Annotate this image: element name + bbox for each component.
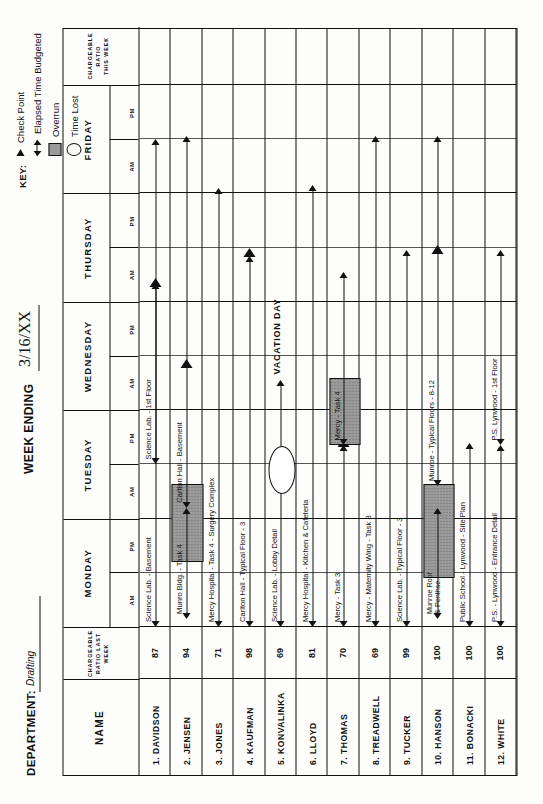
task-label: Munroe Roof& Penthse. [425,572,442,614]
double-arrow-icon [32,140,41,156]
key-title: KEY: [16,165,27,188]
elapsed-time-bar [218,193,219,622]
employee-name: 4. KAUFMAN [244,707,254,765]
check-point-triangle-icon [243,248,255,257]
chargeable-ratio-last-week: 87 [149,627,159,679]
column-header-thursday: THURSDAY AM PM [63,193,139,301]
bar-end-arrow-icon [308,185,316,191]
key-item-overrun: Overrun [48,103,61,156]
key-label: Check Point [14,92,25,143]
bar-end-arrow-icon [371,137,379,143]
column-header-ratio-last-week: CHARGEABLE RATIO LAST WEEK [63,627,139,679]
bar-end-arrow-icon [433,508,441,514]
check-point-triangle-icon [16,149,24,156]
column-header-tuesday: TUESDAY AM PM [63,410,139,518]
employee-name: 10. HANSON [432,708,442,765]
task-label: P.S. Lynwood - 1st Floor [489,359,498,441]
bar-end-arrow-icon [402,250,410,256]
task-label: Mercy - Task 3 [332,573,341,622]
elapsed-time-bar [343,277,344,440]
department-label: DEPARTMENT: [24,690,36,776]
elapsed-time-bar [500,450,501,622]
bar-end-arrow-icon [496,250,504,256]
chargeable-ratio-last-week: 69 [274,627,284,679]
employee-name: 7. THOMAS [338,714,348,765]
department-rule [39,596,40,692]
week-ending-label: WEEK ENDING [21,384,35,474]
employee-name: 2. JENSEN [181,717,191,765]
ratio-this-line3: THIS WEEK [101,27,109,85]
elapsed-time-bar [186,513,187,614]
chargeable-ratio-last-week: 100 [463,627,473,679]
bar-end-arrow-icon [182,508,190,514]
elapsed-time-bar [343,450,344,622]
week-ending-value: 3/16/XX [15,311,33,367]
check-point-triangle-icon [431,245,443,254]
bar-end-arrow-icon [433,137,441,143]
bar-end-arrow-icon [496,445,504,451]
elapsed-time-bar [469,448,470,622]
task-label: Munro Bldg. - Task 4 [174,544,183,614]
ratio-this-line1: CHARGEABLE [85,27,93,85]
column-header-ratio-this-week: CHARGEABLE RATIO THIS WEEK [63,27,139,85]
elapsed-time-bar [406,255,407,622]
task-label: Science Lab. - Lobby Detail [269,529,278,622]
key-label: Elapsed Time Budgeted [31,33,42,134]
vacation-label: VACATION DAY [271,298,281,374]
column-header-name: NAME [63,679,139,775]
task-label: Carlton Hall - Typical Floor - 3 [237,522,246,622]
task-label: Science Lab. - Typical Floor - 3 [394,517,403,622]
employee-name: 9. TUCKER [401,715,411,765]
employee-name: 8. TREADWELL [370,696,380,766]
bar-end-arrow-icon [339,272,347,278]
task-label: Mercy - Task 4 [332,391,341,440]
bar-end-arrow-icon [276,380,284,386]
chargeable-ratio-last-week: 99 [400,627,410,679]
employee-name: 5. KONVALINKA [275,692,285,765]
schedule-sheet: DEPARTMENT: Drafting WEEK ENDING 3/16/XX… [0,0,543,804]
task-label: Science Lab. - 1st Floor [143,379,152,459]
column-header-wednesday: WEDNESDAY AM PM [63,302,139,410]
employee-name: 12. WHITE [495,718,505,765]
task-label: Mercy Hospital - Task 4 - Surgery Comple… [206,478,215,622]
elapsed-time-bar [155,144,156,459]
employee-name: 3. JONES [213,722,223,765]
chargeable-ratio-last-week: 98 [243,627,253,679]
chargeable-ratio-last-week: 100 [494,627,504,679]
column-header-friday: FRIDAY AM PM [63,85,139,193]
bar-end-arrow-icon [465,443,473,449]
chargeable-ratio-last-week: 100 [431,627,441,679]
elapsed-time-bar [312,190,313,622]
ratio-this-line2: RATIO [93,27,101,85]
ratio-last-line3: WEEK [101,628,109,679]
employee-name: 11. BONACKI [464,706,474,765]
week-ending-rule [38,305,39,371]
chargeable-ratio-last-week: 94 [180,627,190,679]
employee-name: 1. DAVIDSON [150,705,160,765]
time-lost-oval [268,446,295,494]
gantt-grid: NAME CHARGEABLE RATIO LAST WEEK MONDAY A… [62,28,517,776]
chargeable-ratio-last-week: 71 [212,627,222,679]
task-label: Munroe - Typical Floors - 8-12 [426,380,435,481]
task-label: Public School - Lynwood - Site Plan [457,502,466,622]
chargeable-ratio-last-week: 69 [369,627,379,679]
elapsed-time-bar [280,385,281,622]
ratio-last-line1: CHARGEABLE [85,628,93,679]
key-label: Overrun [49,103,60,137]
task-label: P.S. - Lynwood - Entrance Detail [489,513,498,622]
department-value: Drafting [24,651,35,686]
elapsed-time-bar [500,255,501,440]
ratio-last-line2: RATIO LAST [93,628,101,679]
chargeable-ratio-last-week: 70 [337,627,347,679]
elapsed-time-bar [437,142,438,482]
bar-end-arrow-icon [151,139,159,145]
elapsed-time-bar [186,142,187,503]
employee-name: 6. LLOYD [307,722,317,765]
key-item-check-point: Check Point [14,92,25,156]
check-point-triangle-icon [180,359,192,368]
bar-end-arrow-icon [214,188,222,194]
chargeable-ratio-last-week: 81 [306,627,316,679]
key-item-elapsed-time: Elapsed Time Budgeted [31,33,42,156]
task-label: Mercy Hospital - Kitchen & Cafeteria [300,500,309,622]
elapsed-time-bar [249,261,250,622]
